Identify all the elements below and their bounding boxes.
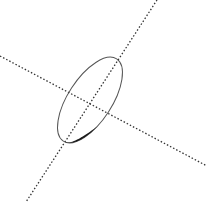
diagram-canvas xyxy=(0,0,212,211)
background xyxy=(0,0,212,211)
